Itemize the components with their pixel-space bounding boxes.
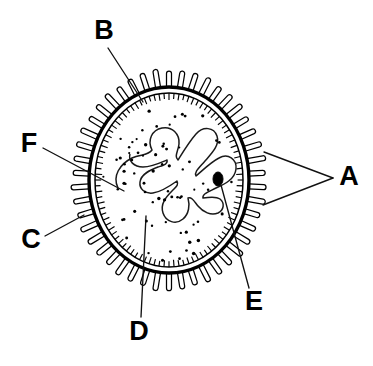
chromatin-dot — [170, 195, 173, 198]
chromatin-dot — [180, 195, 183, 198]
chromatin-dot — [185, 249, 188, 252]
chromatin-dot — [119, 138, 121, 140]
chromatin-dot — [169, 124, 171, 126]
chromatin-dot — [178, 146, 180, 148]
chromatin-dot — [168, 164, 171, 167]
chromatin-dot — [165, 148, 168, 151]
microvillus — [249, 184, 266, 190]
chromatin-dot — [122, 182, 125, 185]
chromatin-dot — [188, 160, 191, 163]
microvillus — [167, 273, 172, 291]
chromatin-dot — [137, 151, 140, 154]
chromatin-dot — [165, 221, 167, 223]
chromatin-dot — [123, 163, 126, 166]
label-A: A — [339, 161, 359, 191]
chromatin-dot — [201, 114, 204, 117]
chromatin-dot — [215, 139, 218, 142]
chromatin-dot — [151, 225, 153, 227]
chromatin-dot — [192, 252, 195, 255]
hatch-mark — [164, 260, 165, 267]
chromatin-dot — [133, 210, 136, 213]
chromatin-dot — [163, 198, 166, 201]
chromatin-dot — [151, 169, 154, 172]
chromatin-dot — [147, 252, 149, 254]
chromatin-dot — [121, 218, 124, 221]
chromatin-dot — [115, 158, 118, 161]
hatch-mark — [173, 260, 174, 267]
chromatin-dot — [102, 176, 104, 178]
chromatin-dot — [184, 115, 187, 118]
chromatin-dot — [169, 250, 172, 253]
chromatin-dot — [192, 224, 194, 226]
chromatin-dot — [174, 115, 177, 118]
label-B: B — [94, 15, 114, 45]
chromatin-dot — [161, 259, 164, 262]
chromatin-dot — [125, 236, 128, 239]
leader-line-A — [263, 178, 333, 205]
microvillus — [153, 69, 161, 88]
chromatin-dot — [142, 155, 144, 157]
chromatin-dot — [176, 196, 179, 199]
chromatin-dot — [188, 241, 191, 244]
hatch-mark — [235, 191, 242, 192]
microvillus — [74, 156, 91, 163]
chromatin-dot — [119, 156, 122, 159]
nucleolus — [213, 172, 223, 186]
chromatin-dot — [152, 201, 154, 203]
chromatin-dot — [185, 231, 188, 234]
chromatin-dot — [122, 170, 125, 173]
chromatin-dot — [197, 239, 200, 242]
chromatin-dot — [155, 125, 158, 128]
chromatin-dot — [182, 168, 184, 170]
chromatin-dot — [141, 129, 143, 131]
chromatin-dot — [144, 143, 147, 146]
microvillus — [74, 196, 91, 204]
microvillus — [249, 170, 265, 176]
chromatin-dot — [178, 257, 181, 260]
label-F: F — [21, 128, 38, 158]
chromatin-dot — [230, 181, 233, 184]
microvillus — [71, 184, 89, 190]
microvillus — [177, 71, 184, 88]
chromatin-dot — [128, 152, 130, 154]
cell-diagram-figure: A B C D E F — [0, 0, 373, 366]
hatch-mark — [96, 168, 102, 169]
chromatin-dot — [157, 197, 160, 200]
chromatin-dot — [131, 141, 133, 143]
chromatin-dot — [128, 146, 131, 149]
microvillus — [153, 272, 161, 291]
chromatin-dot — [202, 182, 204, 184]
hatch-mark — [96, 191, 103, 192]
chromatin-dot — [180, 232, 182, 234]
chromatin-dot — [207, 189, 210, 192]
chromatin-dot — [221, 212, 224, 215]
label-C: C — [21, 224, 41, 254]
chromatin-dot — [147, 109, 150, 112]
leader-line-C — [45, 215, 84, 236]
chromatin-dot — [130, 159, 133, 162]
microvillus — [247, 196, 265, 204]
chromatin-dot — [144, 191, 147, 194]
chromatin-dot — [218, 141, 221, 144]
diagram-canvas: A B C D E F — [0, 0, 373, 366]
chromatin-dot — [136, 138, 138, 140]
chromatin-dot — [154, 153, 157, 156]
chromatin-dot — [162, 142, 165, 145]
label-E: E — [245, 286, 263, 316]
chromatin-dot — [161, 145, 164, 148]
microvillus — [167, 71, 172, 87]
hatch-mark — [237, 168, 243, 169]
chromatin-dot — [197, 220, 200, 223]
chromatin-dot — [161, 163, 163, 165]
chromatin-dot — [193, 189, 195, 191]
chromatin-dot — [143, 182, 146, 185]
chromatin-dot — [133, 172, 135, 174]
microvillus — [177, 272, 184, 289]
leader-line-A — [264, 152, 333, 178]
chromatin-dot — [167, 190, 169, 192]
chromatin-dot — [181, 113, 184, 116]
label-D: D — [129, 316, 149, 346]
microvillus — [247, 156, 266, 164]
